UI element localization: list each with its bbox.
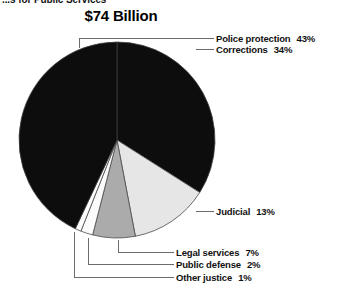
callout-pct-legal-services: 7% [245,247,258,258]
pie-slices [19,42,215,238]
callout-pct-judicial: 13% [256,206,275,217]
callout-label-corrections: Corrections [216,44,268,55]
callout-legal-services[interactable]: Legal services7% [176,247,259,258]
callout-pct-corrections: 34% [274,44,293,55]
callout-label-public-defense: Public defense [176,259,241,270]
callout-label-legal-services: Legal services [176,247,239,258]
callout-corrections[interactable]: Corrections34% [216,44,292,55]
callout-public-defense[interactable]: Public defense2% [176,259,260,270]
pie-chart-figure: ...s for Public Services $74 Billion [0,0,337,287]
callout-other-justice[interactable]: Other justice1% [176,272,252,283]
callout-police-protection[interactable]: Police protection43% [216,33,315,44]
callout-label-police-protection: Police protection [216,33,291,44]
leader-line-other-justice [74,232,174,277]
callout-label-other-justice: Other justice [176,272,232,283]
callout-pct-police-protection: 43% [297,33,316,44]
callout-pct-other-justice: 1% [238,272,251,283]
callout-judicial[interactable]: Judicial13% [216,206,275,217]
leader-line-public-defense [88,238,174,264]
leader-line-legal-services [118,240,174,252]
callout-label-judicial: Judicial [216,206,250,217]
callout-pct-public-defense: 2% [247,259,260,270]
